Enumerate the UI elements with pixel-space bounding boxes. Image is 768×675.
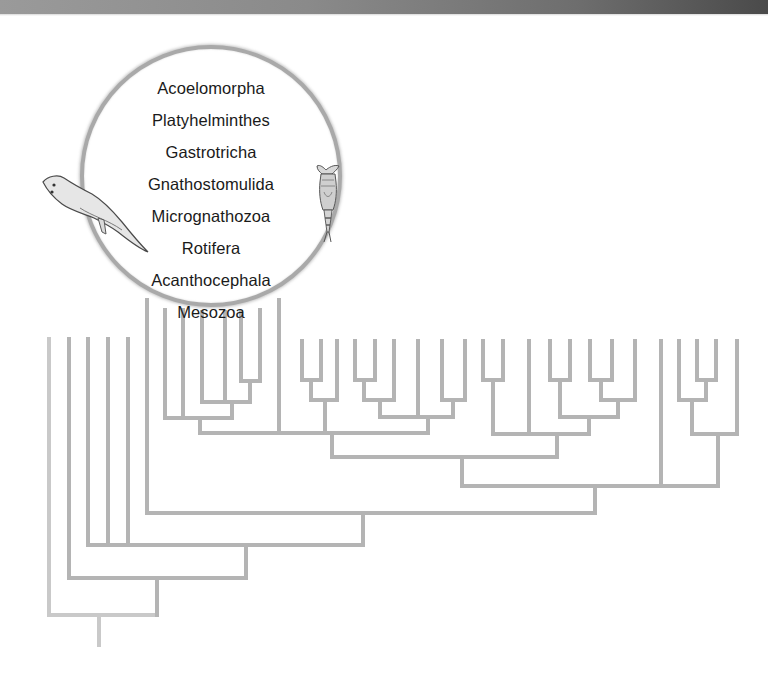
taxon-label: Platyhelminthes <box>80 104 342 136</box>
rotifer-illustration <box>312 162 346 246</box>
taxon-label: Acoelomorpha <box>80 72 342 104</box>
taxon-label: Mesozoa <box>80 296 342 328</box>
taxon-label: Gastrotricha <box>80 136 342 168</box>
outgroup-branch <box>49 339 157 645</box>
tree-branches <box>69 300 737 615</box>
flatworm-illustration <box>40 170 155 260</box>
taxon-label: Acanthocephala <box>80 264 342 296</box>
